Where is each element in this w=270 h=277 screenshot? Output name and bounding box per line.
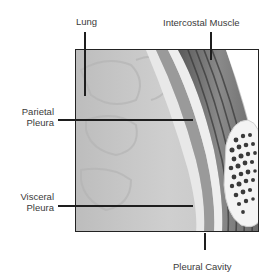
label-parietal-pleura-line1: Parietal [0, 106, 54, 117]
label-visceral-pleura: Visceral Pleura [0, 191, 54, 213]
label-parietal-pleura: Parietal Pleura [0, 106, 54, 128]
leader-line-pleural-cavity [204, 233, 206, 250]
label-pleural-cavity: Pleural Cavity [173, 261, 232, 272]
leader-line-visceral-pleura [58, 205, 193, 207]
leader-line-intercostal-muscle [210, 32, 212, 60]
label-intercostal-muscle: Intercostal Muscle [163, 17, 240, 28]
label-visceral-pleura-line1: Visceral [0, 191, 54, 202]
label-visceral-pleura-line2: Pleura [0, 202, 54, 213]
label-lung: Lung [76, 16, 97, 27]
label-parietal-pleura-line2: Pleura [0, 117, 54, 128]
leader-line-lung [84, 32, 86, 96]
leader-line-parietal-pleura [58, 119, 193, 121]
rib-cross-section [224, 120, 259, 227]
